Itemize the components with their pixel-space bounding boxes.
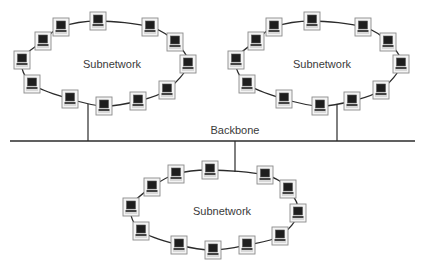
subnetwork-label-bottom: Subnetwork: [193, 205, 252, 217]
computer-terminal-icon: [266, 18, 282, 36]
computer-terminal-icon: [202, 161, 218, 179]
computer-terminal-icon: [144, 178, 160, 196]
subnetwork-label-top-left: Subnetwork: [83, 58, 142, 70]
computer-terminal-icon: [123, 198, 139, 216]
computer-terminal-icon: [96, 97, 112, 115]
computer-terminal-icon: [248, 32, 264, 50]
computer-terminal-icon: [167, 33, 183, 51]
computer-terminal-icon: [272, 227, 288, 245]
computer-terminal-icon: [228, 51, 244, 69]
computer-terminal-icon: [130, 92, 146, 110]
computer-terminal-icon: [35, 32, 51, 50]
computer-terminal-icon: [290, 204, 306, 222]
computer-terminal-icon: [168, 165, 184, 183]
computer-terminal-icon: [90, 12, 106, 30]
computer-terminal-icon: [180, 55, 196, 73]
computer-terminal-icon: [257, 166, 273, 184]
computer-terminal-icon: [142, 18, 158, 36]
computer-terminal-icon: [62, 90, 78, 108]
computer-terminal-icon: [239, 236, 255, 254]
computer-terminal-icon: [14, 51, 30, 69]
computer-terminal-icon: [239, 75, 255, 93]
network-diagram: Backbone Subnetwork Subnetwork Subnetwor…: [0, 0, 424, 270]
computer-terminal-icon: [312, 97, 328, 115]
computer-terminal-icon: [53, 18, 69, 36]
computer-terminal-icon: [280, 180, 296, 198]
backbone-label: Backbone: [211, 124, 260, 136]
computer-terminal-icon: [133, 222, 149, 240]
labels: Backbone Subnetwork Subnetwork Subnetwor…: [83, 58, 352, 217]
computer-terminal-icon: [373, 81, 389, 99]
computer-terminal-icon: [171, 236, 187, 254]
computer-terminal-icon: [393, 55, 409, 73]
computer-terminal-icon: [304, 12, 320, 30]
computer-terminal-icon: [24, 75, 40, 93]
computer-terminal-icon: [355, 18, 371, 36]
computer-terminal-icon: [380, 33, 396, 51]
computer-terminal-icon: [276, 90, 292, 108]
computer-terminal-icon: [205, 241, 221, 259]
computer-terminal-icon: [344, 92, 360, 110]
subnetwork-label-top-right: Subnetwork: [293, 58, 352, 70]
computer-terminal-icon: [159, 81, 175, 99]
